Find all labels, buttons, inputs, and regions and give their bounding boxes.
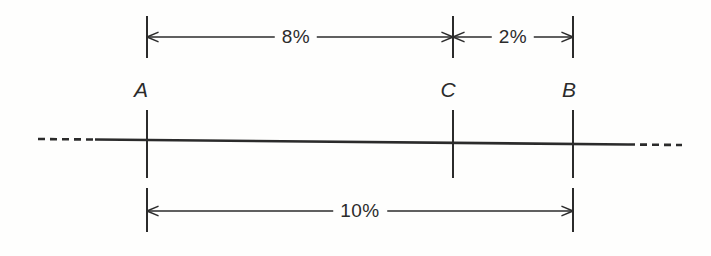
baseline-solid [95, 140, 628, 145]
dimension-label-ac: 8% [275, 26, 317, 48]
baseline-dash-right [628, 144, 682, 145]
point-label-c: C [440, 78, 455, 102]
point-label-b: B [562, 78, 576, 102]
dimension-figure: 8% 2% 10% A C B [0, 0, 711, 256]
dimension-line-group [147, 32, 573, 215]
baseline-dash-left [38, 139, 95, 140]
dimension-label-cb: 2% [492, 26, 534, 48]
baseline-group [38, 139, 682, 145]
point-label-a: A [134, 78, 148, 102]
dimension-label-ab: 10% [333, 200, 387, 222]
